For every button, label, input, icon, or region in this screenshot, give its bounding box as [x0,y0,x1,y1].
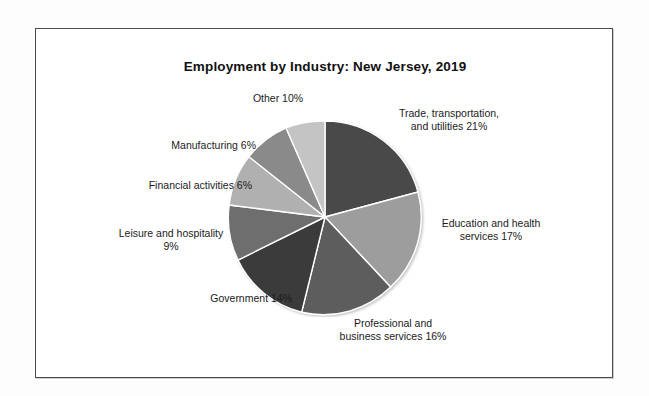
pie-label-other: Other 10% [218,92,338,105]
pie-label-trade: Trade, transportation, and utilities 21% [374,107,524,133]
chart-page: Employment by Industry: New Jersey, 2019 [0,0,649,396]
pie-chart-area: Trade, transportation, and utilities 21%… [36,29,614,379]
figure-frame: Employment by Industry: New Jersey, 2019 [35,28,613,378]
pie-label-manufacturing: Manufacturing 6% [126,139,256,152]
pie-label-education: Education and health services 17% [421,217,561,243]
pie-label-leisure: Leisure and hospitality 9% [91,227,251,253]
pie-slices-group [228,121,421,315]
pie-label-professional: Professional and business services 16% [313,317,473,343]
pie-label-government: Government 14% [156,292,292,305]
pie-label-financial: Financial activities 6% [82,179,252,192]
